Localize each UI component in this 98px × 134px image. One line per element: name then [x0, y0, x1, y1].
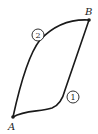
path-1-curve [13, 20, 89, 117]
point-a-label: A [7, 121, 15, 132]
point-a-dot [11, 115, 15, 119]
path-1-marker: 1 [67, 91, 79, 103]
point-b-label: B [84, 6, 92, 17]
path-1-marker-label: 1 [70, 93, 75, 102]
path-2-marker: 2 [32, 29, 44, 41]
point-b-dot [87, 18, 91, 22]
path-2-curve [13, 20, 89, 117]
path-diagram: A B 2 1 [0, 0, 98, 134]
path-2-marker-label: 2 [35, 31, 40, 40]
